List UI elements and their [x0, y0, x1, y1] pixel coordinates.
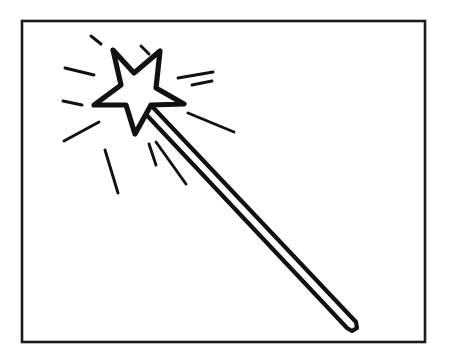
- drawing-canvas: Magic Wand magic-wand-with-star-and-spar…: [0, 0, 449, 364]
- magic-wand-illustration: [0, 0, 449, 364]
